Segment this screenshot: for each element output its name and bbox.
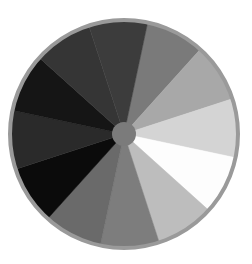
wheel-hub (112, 122, 136, 146)
grayscale-wheel (0, 0, 252, 264)
